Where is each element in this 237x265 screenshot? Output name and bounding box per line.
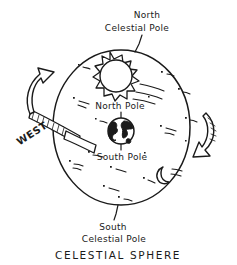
star <box>71 95 76 100</box>
star <box>183 115 188 120</box>
star <box>108 164 113 169</box>
star-streak <box>79 101 89 104</box>
rotation-arrow-right <box>193 113 216 157</box>
star <box>159 69 164 74</box>
sun-disc <box>100 60 132 92</box>
celestial-sphere-diagram: North Celestial Pole North Pole South Po… <box>0 0 237 265</box>
star-streak <box>83 67 90 69</box>
north-pole-label: North Pole <box>95 101 145 111</box>
star <box>184 139 188 143</box>
earth-globe-icon <box>108 118 134 144</box>
west-label: WEST <box>15 119 50 147</box>
moon-streak-1 <box>172 169 182 171</box>
sun-streak-2 <box>136 92 162 99</box>
star-streak <box>190 120 197 122</box>
star-streak <box>73 168 81 170</box>
star-streak <box>124 199 132 201</box>
rotation-arrow-left <box>27 68 54 114</box>
north-celestial-pole-label-line2: Celestial Pole <box>105 23 169 33</box>
star-streak <box>165 133 174 135</box>
star-streak <box>100 121 107 123</box>
south-celestial-pole-leader-line <box>114 205 118 220</box>
star <box>158 123 163 128</box>
south-celestial-pole-label-line1: South <box>99 222 127 232</box>
diagram-caption: CELESTIAL SPHERE <box>55 249 181 261</box>
star <box>141 175 146 180</box>
north-celestial-pole-label-line1: North <box>134 10 161 20</box>
moon-streak-2 <box>171 174 181 176</box>
star-streak <box>74 164 83 166</box>
sun-streak-1 <box>140 84 164 91</box>
star-streak <box>167 74 174 76</box>
north-celestial-pole-leader-line <box>135 35 142 52</box>
star <box>67 158 72 163</box>
star-streak <box>166 128 176 131</box>
star-streak <box>78 105 86 108</box>
star-streak <box>116 169 126 172</box>
south-celestial-pole-label-line2: Celestial Pole <box>82 234 146 244</box>
south-pole-label: South Pole <box>97 152 148 162</box>
crescent-moon-icon <box>157 167 169 184</box>
star <box>101 183 106 188</box>
sun-icon <box>93 52 139 101</box>
star <box>94 117 98 121</box>
star-streak <box>109 188 119 191</box>
star-streak <box>148 180 155 183</box>
star <box>116 194 121 199</box>
